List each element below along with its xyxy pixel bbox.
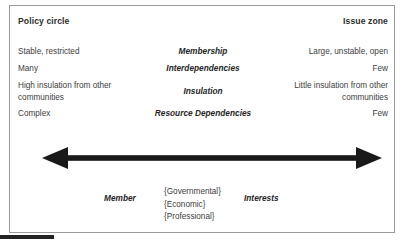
interest-type-economic: {Economic} — [164, 199, 234, 212]
interdependencies-dimension-label: Interdependencies — [133, 63, 273, 75]
interests-label: Interests — [244, 193, 279, 203]
resource-dependencies-issue-zone-value: Few — [263, 108, 388, 120]
interdependencies-policy-circle-value: Many — [18, 63, 138, 75]
membership-dimension-label: Membership — [133, 46, 273, 58]
policy-circle-heading: Policy circle — [18, 16, 69, 26]
issue-zone-heading: Issue zone — [343, 16, 388, 26]
attribute-row-membership: Stable, restricted Membership Large, uns… — [18, 46, 388, 60]
policy-network-diagram: Policy circle Issue zone Stable, restric… — [9, 5, 395, 233]
membership-issue-zone-value: Large, unstable, open — [263, 46, 388, 58]
attribute-rows: Stable, restricted Membership Large, uns… — [18, 46, 388, 125]
interdependencies-issue-zone-value: Few — [263, 63, 388, 75]
resource-dependencies-dimension-label: Resource Dependencies — [133, 108, 273, 120]
attribute-row-insulation: High insulation from other communities I… — [18, 80, 388, 105]
diagram-header: Policy circle Issue zone — [18, 16, 388, 30]
scan-artifact-bar — [0, 235, 54, 239]
insulation-policy-circle-value: High insulation from other communities — [18, 80, 138, 103]
interest-type-list: {Governmental} {Economic} {Professional} — [164, 186, 234, 224]
interest-type-governmental: {Governmental} — [164, 186, 234, 199]
insulation-issue-zone-value: Little insulation from other communities — [263, 80, 388, 103]
interest-type-professional: {Professional} — [164, 211, 234, 224]
attribute-row-resource-dependencies: Complex Resource Dependencies Few — [18, 108, 388, 122]
double-headed-arrow-icon — [42, 147, 382, 169]
resource-dependencies-policy-circle-value: Complex — [18, 108, 138, 120]
member-interests-row: Member {Governmental} {Economic} {Profes… — [18, 184, 388, 228]
membership-policy-circle-value: Stable, restricted — [18, 46, 138, 58]
insulation-dimension-label: Insulation — [133, 86, 273, 98]
member-label: Member — [104, 193, 136, 203]
attribute-row-interdependencies: Many Interdependencies Few — [18, 63, 388, 77]
